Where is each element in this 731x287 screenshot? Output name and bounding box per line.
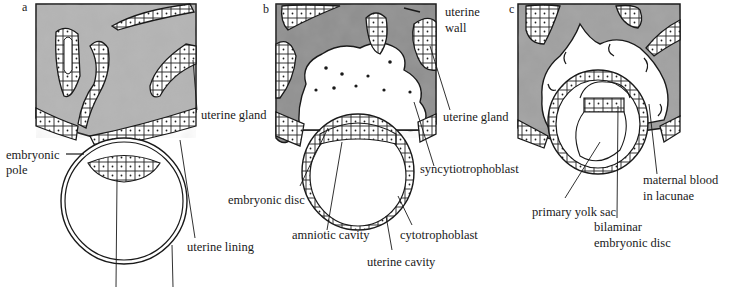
label-bilaminar-line1: bilaminar bbox=[594, 220, 642, 234]
label-maternal-blood-line1: maternal blood bbox=[643, 173, 718, 187]
label-bilaminar-line2: embryonic disc bbox=[594, 236, 671, 250]
panel-a bbox=[36, 4, 197, 287]
label-uterine-gland-b: uterine gland bbox=[443, 110, 509, 124]
panel-b bbox=[276, 4, 450, 250]
label-cytotrophoblast: cytotrophoblast bbox=[400, 228, 478, 242]
label-uterine-wall-line1: uterine bbox=[445, 5, 480, 19]
label-maternal-blood-line2: in lacunae bbox=[643, 189, 694, 203]
label-uterine-lining: uterine lining bbox=[187, 240, 254, 254]
panel-letter-a: a bbox=[22, 0, 27, 15]
panel-letter-b: b bbox=[263, 2, 269, 17]
label-amniotic-cavity: amniotic cavity bbox=[292, 228, 369, 242]
label-embryonic-pole-line1: embryonic bbox=[6, 148, 59, 162]
label-uterine-gland-a: uterine gland bbox=[201, 108, 267, 122]
label-uterine-cavity: uterine cavity bbox=[367, 255, 435, 269]
label-embryonic-pole-line2: pole bbox=[6, 163, 28, 177]
panel-letter-c: c bbox=[509, 2, 514, 17]
label-embryonic-disc: embryonic disc bbox=[228, 193, 305, 207]
label-primary-yolk-sac: primary yolk sac bbox=[532, 205, 616, 219]
label-syncytiotrophoblast: syncytiotrophoblast bbox=[420, 162, 519, 176]
label-uterine-wall-line2: wall bbox=[445, 21, 467, 35]
implantation-diagram: a b c uterine gland embryonic pole uteri… bbox=[0, 0, 731, 287]
